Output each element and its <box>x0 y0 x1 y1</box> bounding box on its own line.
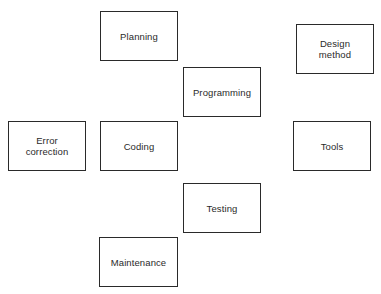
error-correction-box: Error correction <box>8 121 86 171</box>
coding-box: Coding <box>100 121 178 171</box>
tools-label: Tools <box>321 141 344 152</box>
error-correction-label: Error correction <box>26 135 69 157</box>
programming-label: Programming <box>193 87 251 98</box>
maintenance-label: Maintenance <box>111 257 167 268</box>
programming-box: Programming <box>183 67 261 117</box>
coding-label: Coding <box>124 141 155 152</box>
planning-label: Planning <box>120 31 158 42</box>
design-method-label: Design method <box>319 38 351 60</box>
design-method-box: Design method <box>296 24 374 74</box>
maintenance-box: Maintenance <box>99 237 178 287</box>
testing-box: Testing <box>183 183 261 233</box>
tools-box: Tools <box>293 121 371 171</box>
planning-box: Planning <box>100 11 178 61</box>
testing-label: Testing <box>207 203 238 214</box>
